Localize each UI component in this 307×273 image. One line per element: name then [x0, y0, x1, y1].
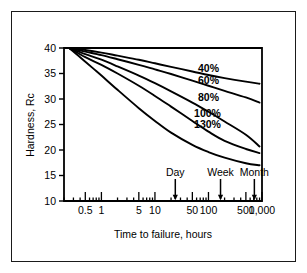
x-tick-label: 100 — [200, 204, 218, 216]
y-tick-label: 30 — [44, 93, 56, 105]
x-tick-label: 1 — [98, 204, 104, 216]
series-label-60pct: 60% — [198, 74, 220, 86]
chart-canvas: 10152025303540 0.51510501005001,000 40%6… — [0, 0, 307, 273]
data-curves — [69, 48, 259, 165]
y-axis-tick-labels: 10152025303540 — [44, 42, 56, 207]
annotation-label-day: Day — [166, 166, 185, 178]
annotation-arrow-head-week — [218, 195, 223, 200]
annotation-label-week: Week — [207, 166, 234, 178]
annotation-arrow-head-day — [173, 195, 178, 200]
curve-60pct — [69, 48, 259, 103]
x-tick-label: 0.5 — [78, 204, 93, 216]
y-tick-label: 20 — [44, 144, 56, 156]
x-tick-label: 50 — [187, 204, 199, 216]
time-annotations: DayWeekMonth — [166, 166, 269, 200]
y-tick-label: 40 — [44, 42, 56, 54]
x-axis-title: Time to failure, hours — [114, 228, 212, 240]
x-tick-label: 1,000 — [249, 204, 275, 216]
y-tick-label: 25 — [44, 118, 56, 130]
series-label-80pct: 80% — [198, 91, 220, 103]
y-tick-label: 15 — [44, 169, 56, 181]
annotation-label-month: Month — [240, 166, 269, 178]
x-axis-tick-labels: 0.51510501005001,000 — [78, 204, 275, 216]
y-tick-label: 35 — [44, 67, 56, 79]
curve-100pct — [69, 48, 259, 153]
series-label-130pct: 130% — [194, 118, 222, 130]
x-tick-label: 5 — [136, 204, 142, 216]
y-axis-title: Hardness, Rc — [24, 93, 36, 157]
series-label-40pct: 40% — [198, 62, 220, 74]
y-tick-label: 10 — [44, 195, 56, 207]
x-tick-label: 10 — [149, 204, 161, 216]
figure-root: 10152025303540 0.51510501005001,000 40%6… — [0, 0, 307, 273]
x-axis-ticks — [64, 192, 262, 201]
series-labels: 40%60%80%100%130% — [194, 62, 222, 130]
